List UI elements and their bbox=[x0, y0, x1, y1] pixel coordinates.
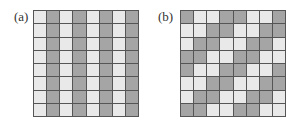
dark-cell bbox=[194, 38, 206, 50]
dark-cell bbox=[126, 91, 138, 103]
light-cell bbox=[260, 11, 272, 23]
dark-cell bbox=[234, 11, 246, 23]
light-cell bbox=[260, 51, 272, 63]
dark-cell bbox=[234, 51, 246, 63]
light-cell bbox=[113, 11, 125, 23]
dark-cell bbox=[207, 77, 219, 89]
dark-cell bbox=[247, 104, 259, 116]
light-cell bbox=[87, 38, 99, 50]
light-cell bbox=[60, 38, 72, 50]
dark-cell bbox=[47, 38, 59, 50]
dark-cell bbox=[126, 104, 138, 116]
light-cell bbox=[207, 11, 219, 23]
light-cell bbox=[34, 91, 46, 103]
dark-cell bbox=[73, 64, 85, 76]
dark-cell bbox=[126, 38, 138, 50]
light-cell bbox=[273, 38, 285, 50]
light-cell bbox=[87, 104, 99, 116]
light-cell bbox=[234, 91, 246, 103]
dark-cell bbox=[100, 51, 112, 63]
dark-cell bbox=[194, 51, 206, 63]
light-cell bbox=[113, 38, 125, 50]
dark-cell bbox=[126, 64, 138, 76]
dark-cell bbox=[181, 11, 193, 23]
light-cell bbox=[113, 77, 125, 89]
light-cell bbox=[247, 77, 259, 89]
dark-cell bbox=[247, 91, 259, 103]
dark-cell bbox=[247, 51, 259, 63]
dark-cell bbox=[126, 51, 138, 63]
light-cell bbox=[87, 77, 99, 89]
light-cell bbox=[181, 24, 193, 36]
panel-b-grid bbox=[180, 10, 286, 117]
light-cell bbox=[273, 51, 285, 63]
light-cell bbox=[181, 77, 193, 89]
dark-cell bbox=[194, 104, 206, 116]
dark-cell bbox=[260, 38, 272, 50]
light-cell bbox=[34, 11, 46, 23]
dark-cell bbox=[100, 64, 112, 76]
dark-cell bbox=[100, 38, 112, 50]
dark-cell bbox=[100, 104, 112, 116]
light-cell bbox=[60, 24, 72, 36]
light-cell bbox=[34, 64, 46, 76]
light-cell bbox=[247, 24, 259, 36]
light-cell bbox=[113, 24, 125, 36]
dark-cell bbox=[247, 38, 259, 50]
dark-cell bbox=[126, 11, 138, 23]
light-cell bbox=[87, 51, 99, 63]
dark-cell bbox=[47, 77, 59, 89]
dark-cell bbox=[100, 24, 112, 36]
dark-cell bbox=[207, 91, 219, 103]
light-cell bbox=[87, 91, 99, 103]
light-cell bbox=[34, 77, 46, 89]
panel-b-label: (b) bbox=[158, 10, 173, 23]
dark-cell bbox=[73, 24, 85, 36]
dark-cell bbox=[220, 11, 232, 23]
dark-cell bbox=[273, 24, 285, 36]
light-cell bbox=[87, 64, 99, 76]
light-cell bbox=[60, 51, 72, 63]
dark-cell bbox=[273, 77, 285, 89]
dark-cell bbox=[181, 51, 193, 63]
light-cell bbox=[194, 77, 206, 89]
light-cell bbox=[220, 104, 232, 116]
dark-cell bbox=[234, 104, 246, 116]
dark-cell bbox=[273, 64, 285, 76]
light-cell bbox=[34, 104, 46, 116]
dark-cell bbox=[220, 24, 232, 36]
dark-cell bbox=[73, 91, 85, 103]
light-cell bbox=[34, 51, 46, 63]
light-cell bbox=[220, 91, 232, 103]
dark-cell bbox=[273, 11, 285, 23]
light-cell bbox=[181, 38, 193, 50]
light-cell bbox=[220, 51, 232, 63]
dark-cell bbox=[207, 38, 219, 50]
dark-cell bbox=[260, 91, 272, 103]
light-cell bbox=[273, 104, 285, 116]
light-cell bbox=[87, 24, 99, 36]
dark-cell bbox=[73, 51, 85, 63]
light-cell bbox=[87, 11, 99, 23]
light-cell bbox=[260, 64, 272, 76]
dark-cell bbox=[126, 77, 138, 89]
dark-cell bbox=[73, 38, 85, 50]
dark-cell bbox=[73, 11, 85, 23]
dark-cell bbox=[181, 104, 193, 116]
light-cell bbox=[234, 77, 246, 89]
dark-cell bbox=[47, 11, 59, 23]
dark-cell bbox=[260, 77, 272, 89]
dark-cell bbox=[47, 24, 59, 36]
dark-cell bbox=[220, 77, 232, 89]
light-cell bbox=[194, 24, 206, 36]
light-cell bbox=[194, 11, 206, 23]
light-cell bbox=[60, 91, 72, 103]
dark-cell bbox=[47, 64, 59, 76]
panel-a-label: (a) bbox=[14, 10, 28, 23]
light-cell bbox=[260, 104, 272, 116]
light-cell bbox=[113, 104, 125, 116]
light-cell bbox=[273, 91, 285, 103]
light-cell bbox=[60, 11, 72, 23]
light-cell bbox=[60, 104, 72, 116]
dark-cell bbox=[47, 104, 59, 116]
